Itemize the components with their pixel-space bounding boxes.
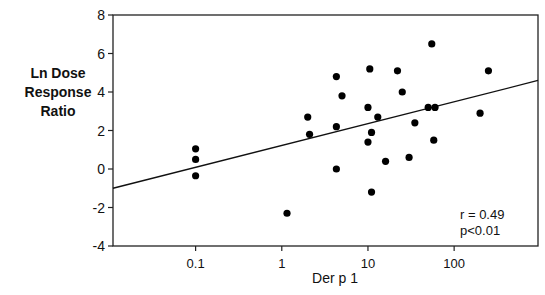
data-point [405, 154, 412, 161]
data-point [364, 138, 371, 145]
data-point [192, 145, 199, 152]
data-points [192, 40, 492, 217]
data-point [192, 156, 199, 163]
data-point [338, 92, 345, 99]
data-point [430, 137, 437, 144]
data-point [425, 104, 432, 111]
y-tick-label: 8 [97, 7, 105, 23]
correlation-r: r = 0.49 [460, 207, 504, 223]
y-tick-label: 0 [97, 161, 105, 177]
data-point [366, 65, 373, 72]
data-point [333, 73, 340, 80]
scatter-plot: -4-202468 0.1110100 [0, 0, 545, 295]
data-point [485, 67, 492, 74]
data-point [283, 210, 290, 217]
data-point [368, 129, 375, 136]
data-point [304, 113, 311, 120]
data-point [394, 67, 401, 74]
y-axis-label: Ln Dose Response Ratio [8, 64, 108, 121]
statistics-annotation: r = 0.49 p<0.01 [460, 207, 504, 239]
regression-line [113, 80, 538, 188]
data-point [364, 104, 371, 111]
data-point [192, 172, 199, 179]
data-point [382, 158, 389, 165]
y-tick-label: -2 [93, 200, 106, 216]
data-point [333, 165, 340, 172]
data-point [431, 104, 438, 111]
regression-line-path [113, 80, 538, 188]
data-point [476, 110, 483, 117]
data-point [411, 119, 418, 126]
y-tick-label: 2 [97, 123, 105, 139]
x-tick-label: 100 [443, 256, 465, 271]
y-tick-label: 6 [97, 46, 105, 62]
y-axis-label-line: Ln Dose [8, 64, 108, 83]
p-value: p<0.01 [460, 223, 504, 239]
x-tick-label: 0.1 [187, 256, 205, 271]
x-tick-label: 10 [361, 256, 375, 271]
y-tick-label: -4 [93, 238, 106, 254]
x-axis-label: Der p 1 [250, 270, 420, 286]
data-point [368, 189, 375, 196]
data-point [306, 131, 313, 138]
y-axis-label-line: Ratio [8, 102, 108, 121]
y-axis: -4-202468 [93, 7, 113, 254]
data-point [374, 113, 381, 120]
data-point [333, 123, 340, 130]
x-axis: 0.1110100 [187, 246, 465, 271]
y-axis-label-line: Response [8, 83, 108, 102]
data-point [428, 40, 435, 47]
data-point [399, 88, 406, 95]
x-tick-label: 1 [278, 256, 285, 271]
